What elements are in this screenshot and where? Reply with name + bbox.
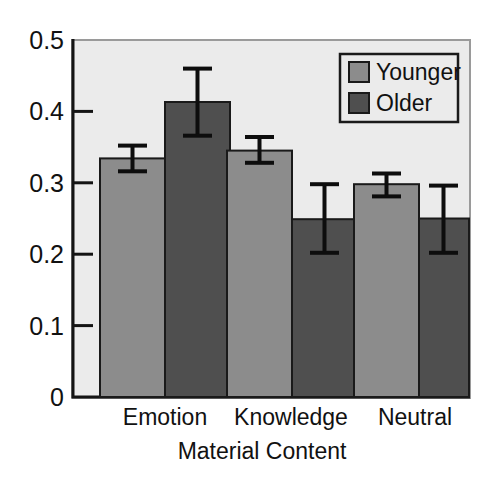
legend-swatch-older [349, 93, 369, 113]
legend-label-older: Older [376, 90, 433, 116]
y-tick-label-3: 0.2 [29, 240, 64, 268]
x-tick-label-knowledge: Knowledge [234, 404, 348, 430]
x-tick-label-emotion: Emotion [123, 404, 207, 430]
bar-emotion-younger[interactable] [100, 158, 165, 397]
x-axis-title: Material Content [178, 438, 347, 464]
y-tick-label-2: 0.3 [29, 169, 64, 197]
legend-swatch-younger [349, 62, 369, 82]
bar-emotion-older[interactable] [165, 102, 230, 397]
bar-chart-figure: 0.5 0.4 0.3 0.2 0.1 0 [0, 0, 500, 483]
chart-canvas: 0.5 0.4 0.3 0.2 0.1 0 [0, 0, 500, 483]
y-tick-label-4: 0.1 [29, 312, 64, 340]
legend: Younger Older [340, 54, 461, 122]
legend-label-younger: Younger [376, 59, 461, 85]
y-tick-label-0: 0.5 [29, 26, 64, 54]
bar-knowledge-younger[interactable] [227, 151, 292, 397]
x-axis-tick-labels: Emotion Knowledge Neutral [123, 404, 452, 430]
y-tick-label-5: 0 [50, 383, 64, 411]
y-axis-tick-labels: 0.5 0.4 0.3 0.2 0.1 0 [29, 26, 64, 411]
y-tick-label-1: 0.4 [29, 97, 64, 125]
x-tick-label-neutral: Neutral [378, 404, 452, 430]
bar-neutral-younger[interactable] [354, 184, 419, 397]
